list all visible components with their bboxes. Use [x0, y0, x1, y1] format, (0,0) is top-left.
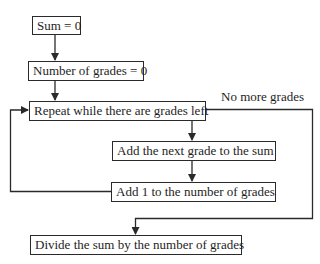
node-sum-init-label: Sum = 0: [37, 18, 81, 34]
node-divide: Divide the sum by the number of grades: [30, 235, 242, 255]
node-loop-label: Repeat while there are grades left: [34, 103, 208, 119]
node-add-grade-label: Add the next grade to the sum: [117, 143, 274, 159]
node-sum-init: Sum = 0: [32, 16, 81, 35]
node-increment: Add 1 to the number of grades: [111, 182, 276, 202]
node-increment-label: Add 1 to the number of grades: [116, 184, 275, 200]
arrow-loop-exit: [136, 110, 313, 235]
flowchart-canvas: Sum = 0 Number of grades = 0 Repeat whil…: [0, 0, 320, 264]
node-count-init-label: Number of grades = 0: [33, 63, 147, 79]
node-divide-label: Divide the sum by the number of grades: [35, 237, 244, 253]
node-loop: Repeat while there are grades left: [29, 101, 206, 121]
flowchart-connectors: [0, 0, 320, 264]
edge-label-no-more-grades: No more grades: [221, 89, 304, 105]
node-add-grade: Add the next grade to the sum: [112, 141, 276, 161]
arrow-increment-loop-back: [11, 110, 112, 192]
node-count-init: Number of grades = 0: [28, 61, 144, 81]
